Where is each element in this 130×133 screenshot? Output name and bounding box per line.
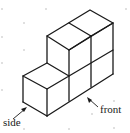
- cube-edges: [23, 10, 113, 116]
- front-label: front: [100, 104, 121, 115]
- front-arrow: [87, 97, 98, 107]
- side-label: side: [3, 117, 21, 128]
